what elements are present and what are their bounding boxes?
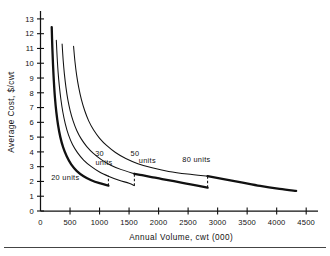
x-tick-label-1000: 1000 [91, 218, 109, 227]
x-tick-label-2500: 2500 [179, 218, 197, 227]
y-tick-label-2: 2 [30, 177, 34, 186]
y-tick-label-12: 12 [25, 29, 34, 38]
y-tick-label-4: 4 [30, 148, 34, 157]
y-tick-label-8: 8 [30, 89, 34, 98]
x-tick-label-1500: 1500 [120, 218, 138, 227]
x-tick-label-3500: 3500 [238, 218, 256, 227]
y-tick-label-10: 10 [25, 59, 34, 68]
x-tick-label-4000: 4000 [268, 218, 286, 227]
y-tick-label-3: 3 [30, 162, 34, 171]
x-tick-label-3000: 3000 [209, 218, 227, 227]
figure-container: 012345678910111213 050010001500200025003… [0, 0, 330, 256]
x-tick-label-0: 0 [38, 218, 42, 227]
x-axis-title: Annual Volume, cwt (000) [129, 233, 233, 242]
annotation-50-units: units [139, 156, 156, 165]
annotation-30-units: units [95, 158, 112, 167]
y-axis-title: Average Cost, $/cwt [7, 71, 16, 153]
y-tick-label-6: 6 [30, 118, 34, 127]
y-tick-label-9: 9 [30, 74, 34, 83]
x-tick-label-500: 500 [63, 218, 76, 227]
annotation-20-units: 20 units [51, 173, 79, 182]
y-tick-label-1: 1 [30, 192, 34, 201]
y-tick-label-11: 11 [26, 44, 34, 53]
x-tick-label-4500: 4500 [297, 218, 315, 227]
annotation-80-units: 80 units [182, 155, 210, 164]
y-tick-label-5: 5 [30, 133, 34, 142]
y-tick-label-7: 7 [30, 103, 34, 112]
average-cost-vs-annual-volume-chart: 012345678910111213 050010001500200025003… [0, 0, 330, 256]
y-tick-label-13: 13 [25, 15, 34, 24]
x-tick-label-2000: 2000 [150, 218, 168, 227]
annotation-30: 30 [95, 149, 104, 158]
y-tick-label-0: 0 [30, 207, 34, 216]
